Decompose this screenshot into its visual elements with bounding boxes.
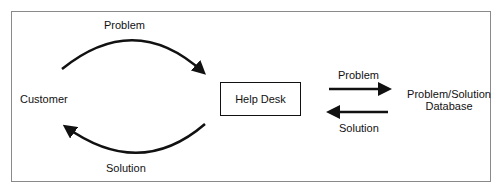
node-customer: Customer (20, 93, 68, 105)
edge-label-solution-right: Solution (339, 122, 379, 134)
node-database: Problem/Solution Database (400, 88, 498, 112)
edge-label-solution-bottom: Solution (106, 162, 146, 174)
help-desk-label: Help Desk (235, 93, 286, 105)
edge-label-problem-top: Problem (104, 19, 145, 31)
database-label-line2: Database (400, 100, 498, 112)
node-help-desk: Help Desk (220, 82, 301, 116)
problem-curve-arrow (62, 40, 203, 72)
edge-label-problem-right: Problem (338, 69, 379, 81)
database-label-line1: Problem/Solution (400, 88, 498, 100)
solution-curve-arrow (66, 124, 205, 153)
